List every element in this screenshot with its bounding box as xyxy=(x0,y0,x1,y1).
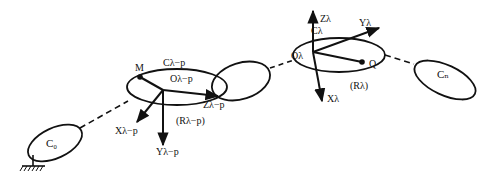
kinematic-chain-diagram: C₀ Cλ−p Oλ−p M Zλ−p Xλ−p Yλ−p (Rλ−p) Cλ … xyxy=(0,0,487,174)
label-x-lambda: Xλ xyxy=(327,93,339,104)
label-o-lambda: Oλ xyxy=(291,50,303,61)
dashed-link-intermediate-to-cl xyxy=(270,60,294,68)
label-c0: C₀ xyxy=(46,137,57,149)
label-frame-r-lambda-minus-p: (Rλ−p) xyxy=(176,115,205,127)
label-c-lambda-minus-p: Cλ−p xyxy=(163,57,185,68)
label-frame-r-lambda: (Rλ) xyxy=(350,80,368,92)
body-cn xyxy=(409,52,481,107)
label-q: Q xyxy=(369,58,377,69)
diagram-svg: C₀ Cλ−p Oλ−p M Zλ−p Xλ−p Yλ−p (Rλ−p) Cλ … xyxy=(0,0,487,174)
axis-y-lambda xyxy=(313,28,379,52)
label-y-lambda-minus-p: Yλ−p xyxy=(156,146,179,157)
vector-oq xyxy=(313,52,362,62)
ground-support xyxy=(20,155,45,171)
dashed-link-c0-to-clp xyxy=(80,101,128,128)
label-z-lambda-minus-p: Zλ−p xyxy=(203,99,225,110)
vector-om xyxy=(140,77,163,90)
axis-x-lambda-minus-p xyxy=(137,90,163,122)
axis-x-lambda xyxy=(313,52,322,101)
label-o-lambda-minus-p: Oλ−p xyxy=(170,73,193,84)
label-m: M xyxy=(135,62,144,73)
point-q xyxy=(359,59,365,65)
label-cn: Cₙ xyxy=(437,68,449,80)
dashed-link-cl-to-cn xyxy=(385,55,414,64)
axis-z-lambda-minus-p xyxy=(163,90,218,96)
label-y-lambda: Yλ xyxy=(359,17,371,28)
label-z-lambda: Zλ xyxy=(320,13,331,24)
label-x-lambda-minus-p: Xλ−p xyxy=(115,125,138,136)
